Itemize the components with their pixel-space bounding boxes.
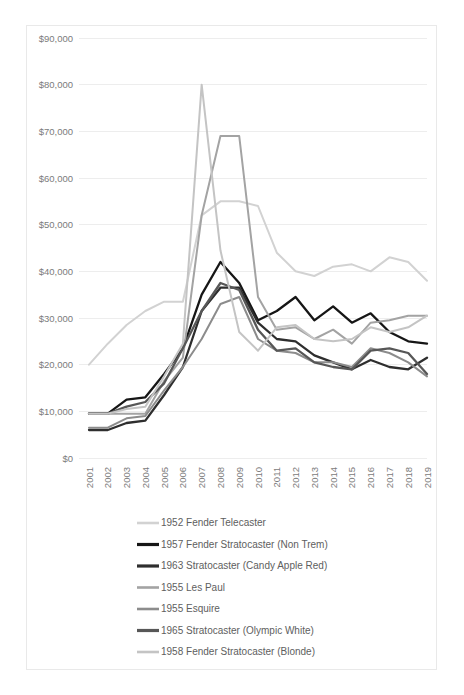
series-line-2 <box>89 288 427 430</box>
series-lines-group <box>89 85 427 430</box>
legend-item-label-4[interactable]: 1955 Esquire <box>161 603 220 614</box>
x-axis-tick-label: 2018 <box>403 467 414 488</box>
x-axis-tick-label: 2010 <box>253 467 264 488</box>
x-axis-tick-label: 2005 <box>159 467 170 488</box>
line-chart: $0$10,000$20,000$30,000$40,000$50,000$60… <box>0 0 464 695</box>
y-axis-tick-label: $10,000 <box>39 406 73 417</box>
y-axis-tick-label: $50,000 <box>39 219 73 230</box>
x-axis-tick-label: 2004 <box>140 467 151 488</box>
x-axis-tick-labels: 2001200220032004200520062007200820092010… <box>84 467 433 488</box>
y-axis-tick-label: $0 <box>62 453 73 464</box>
x-axis-tick-label: 2015 <box>346 467 357 488</box>
y-axis-tick-label: $70,000 <box>39 126 73 137</box>
x-axis-tick-label: 2013 <box>309 467 320 488</box>
x-axis-tick-label: 2007 <box>196 467 207 488</box>
legend-item-label-5[interactable]: 1965 Stratocaster (Olympic White) <box>161 625 314 636</box>
x-axis-tick-label: 2002 <box>102 467 113 488</box>
x-axis-tick-label: 2008 <box>215 467 226 488</box>
x-axis-tick-label: 2016 <box>365 467 376 488</box>
y-axis-tick-label: $30,000 <box>39 313 73 324</box>
chart-container: $0$10,000$20,000$30,000$40,000$50,000$60… <box>0 0 464 695</box>
y-axis-tick-label: $60,000 <box>39 173 73 184</box>
x-axis-tick-label: 2014 <box>328 467 339 488</box>
series-line-5 <box>89 283 427 414</box>
y-axis-tick-labels: $0$10,000$20,000$30,000$40,000$50,000$60… <box>39 33 73 464</box>
legend-item-label-2[interactable]: 1963 Stratocaster (Candy Apple Red) <box>161 560 327 571</box>
x-axis-tick-label: 2001 <box>84 467 95 488</box>
legend-item-label-6[interactable]: 1958 Fender Stratocaster (Blonde) <box>161 646 315 657</box>
legend-item-label-0[interactable]: 1952 Fender Telecaster <box>161 517 267 528</box>
legend-item-label-3[interactable]: 1955 Les Paul <box>161 582 225 593</box>
y-axis-tick-label: $90,000 <box>39 33 73 44</box>
x-axis-tick-label: 2019 <box>422 467 433 488</box>
x-axis-tick-label: 2009 <box>234 467 245 488</box>
x-axis-tick-label: 2017 <box>384 467 395 488</box>
y-axis-tick-label: $40,000 <box>39 266 73 277</box>
x-axis-tick-label: 2003 <box>121 467 132 488</box>
x-axis-tick-label: 2006 <box>177 467 188 488</box>
x-axis-tick-label: 2011 <box>271 467 282 487</box>
y-axis-tick-label: $20,000 <box>39 359 73 370</box>
x-axis-tick-label: 2012 <box>290 467 301 488</box>
chart-legend: 1952 Fender Telecaster1957 Fender Strato… <box>137 517 328 657</box>
legend-item-label-1[interactable]: 1957 Fender Stratocaster (Non Trem) <box>161 539 328 550</box>
y-axis-tick-label: $80,000 <box>39 79 73 90</box>
